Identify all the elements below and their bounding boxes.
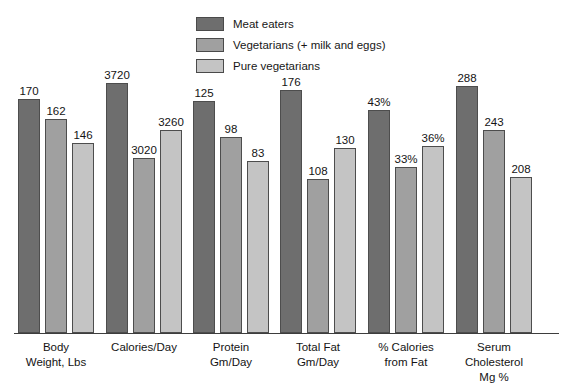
bar-value-label: 125	[194, 87, 213, 99]
bar-value-label: 162	[46, 105, 65, 117]
bar: 208	[510, 177, 532, 333]
plot-area: 170162146BodyWeight, Lbs372030203260Calo…	[0, 0, 572, 390]
bar: 43%	[368, 110, 390, 333]
group-label-line: Cholesterol	[434, 355, 554, 370]
bar: 83	[247, 161, 269, 333]
bar-value-label: 288	[457, 72, 476, 84]
bar-value-label: 36%	[421, 132, 444, 144]
bar: 288	[456, 86, 478, 333]
group-label-line: Mg %	[434, 370, 554, 385]
bar: 170	[18, 99, 40, 333]
group-label-line: Weight, Lbs	[0, 355, 116, 370]
bar: 146	[72, 143, 94, 333]
bar-value-label: 3260	[158, 116, 184, 128]
bar-value-label: 108	[308, 165, 327, 177]
bar: 162	[45, 119, 67, 333]
bar: 125	[193, 101, 215, 333]
bar: 3020	[133, 158, 155, 333]
bar-value-label: 3020	[131, 144, 157, 156]
bar: 36%	[422, 146, 444, 333]
bar: 3260	[160, 130, 182, 333]
bar-chart: Meat eaters Vegetarians (+ milk and eggs…	[0, 0, 572, 390]
bar-value-label: 208	[511, 163, 530, 175]
group-label-line: Serum	[434, 340, 554, 355]
bar-value-label: 146	[73, 129, 92, 141]
bar-value-label: 243	[484, 116, 503, 128]
bar: 130	[334, 148, 356, 333]
bar-value-label: 98	[225, 123, 238, 135]
axis-baseline	[14, 333, 559, 334]
bar: 3720	[106, 83, 128, 333]
group-label: SerumCholesterolMg %	[434, 340, 554, 385]
bar-value-label: 43%	[367, 96, 390, 108]
bar-value-label: 130	[335, 134, 354, 146]
bar: 243	[483, 130, 505, 333]
bar-value-label: 176	[281, 76, 300, 88]
bar: 108	[307, 179, 329, 333]
bar: 33%	[395, 167, 417, 333]
bar-value-label: 3720	[104, 69, 130, 81]
bar: 98	[220, 137, 242, 333]
bar-value-label: 83	[252, 147, 265, 159]
bar-value-label: 170	[19, 85, 38, 97]
bar-value-label: 33%	[394, 153, 417, 165]
bar: 176	[280, 90, 302, 333]
